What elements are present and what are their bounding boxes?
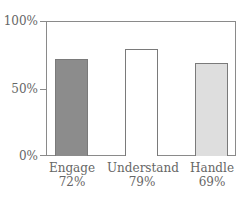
- x-label-understand: Understand 79%: [107, 161, 177, 189]
- value-label: 72%: [37, 175, 107, 189]
- category-name: Handle: [177, 161, 247, 175]
- y-label-100: 100%: [0, 15, 38, 27]
- bar-handle: [195, 63, 228, 156]
- category-name: Understand: [107, 161, 177, 175]
- y-label-50: 50%: [0, 83, 38, 95]
- y-tick-50: [40, 89, 46, 90]
- y-tick-0: [40, 155, 46, 156]
- category-name: Engage: [37, 161, 107, 175]
- value-label: 79%: [107, 175, 177, 189]
- y-label-0: 0%: [0, 150, 38, 162]
- value-label: 69%: [177, 175, 247, 189]
- x-label-handle: Handle 69%: [177, 161, 247, 189]
- x-label-engage: Engage 72%: [37, 161, 107, 189]
- bar-understand: [125, 49, 158, 156]
- y-tick-100: [40, 21, 46, 22]
- bar-chart: 100% 50% 0% Engage 72% Understand 79% Ha…: [0, 0, 250, 201]
- bar-engage: [55, 59, 88, 156]
